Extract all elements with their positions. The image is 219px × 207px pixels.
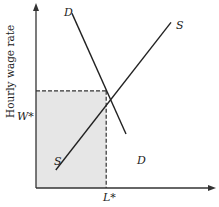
labor-market-chart: D D S S W* L* Hourly wage rate [0, 0, 219, 207]
x-axis-arrow [208, 185, 216, 191]
supply-label-top: S [176, 19, 184, 32]
demand-label-bottom: D [136, 154, 146, 167]
y-axis-arrow [33, 3, 39, 11]
l-star-label: L* [102, 191, 116, 204]
earnings-shaded-area [36, 91, 106, 188]
demand-label-top: D [63, 6, 73, 19]
y-axis-label: Hourly wage rate [4, 25, 16, 118]
supply-label-bottom: S [54, 155, 62, 168]
w-star-label: W* [17, 110, 34, 123]
